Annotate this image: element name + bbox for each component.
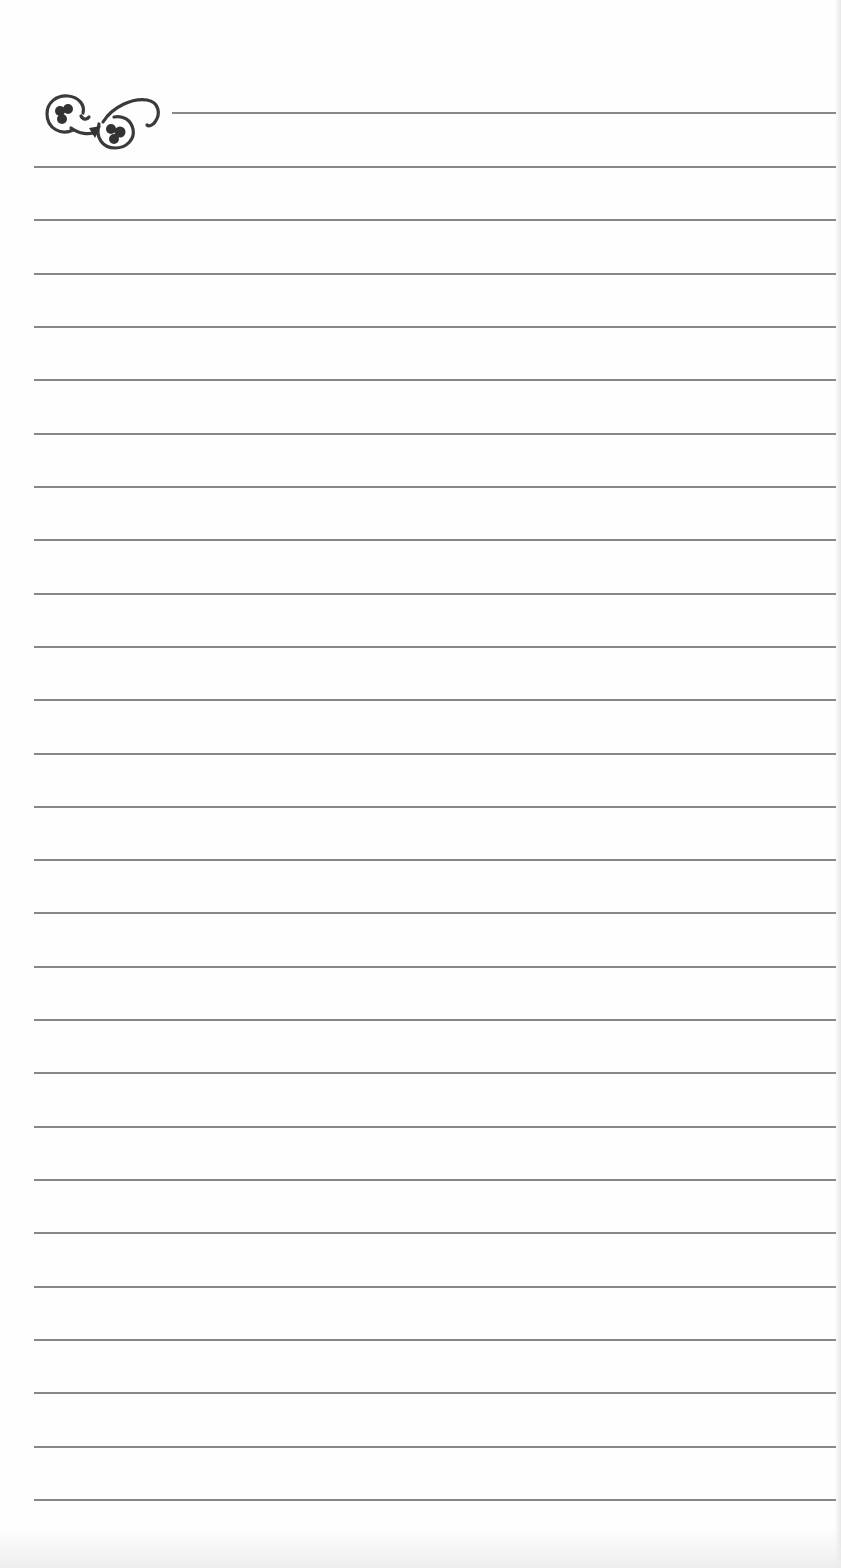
ruled-line bbox=[34, 273, 836, 275]
page-edge-shadow bbox=[835, 0, 841, 1568]
ruled-line bbox=[34, 859, 836, 861]
ruled-line bbox=[34, 699, 836, 701]
ruled-line bbox=[34, 1286, 836, 1288]
ruled-line bbox=[34, 1179, 836, 1181]
ruled-line bbox=[34, 593, 836, 595]
ruled-line bbox=[34, 1072, 836, 1074]
ruled-line bbox=[34, 753, 836, 755]
ruled-line bbox=[34, 806, 836, 808]
ruled-line bbox=[34, 486, 836, 488]
ruled-line bbox=[34, 1499, 836, 1501]
ruled-line bbox=[34, 1232, 836, 1234]
ruled-lines bbox=[0, 0, 841, 1568]
ruled-line bbox=[34, 433, 836, 435]
ruled-line bbox=[34, 1392, 836, 1394]
ruled-line bbox=[34, 1126, 836, 1128]
ruled-line bbox=[34, 379, 836, 381]
notepaper-page bbox=[0, 0, 841, 1568]
ruled-line bbox=[34, 166, 836, 168]
ruled-line bbox=[34, 646, 836, 648]
ruled-line bbox=[34, 1446, 836, 1448]
ruled-line bbox=[34, 1339, 836, 1341]
ruled-line bbox=[34, 219, 836, 221]
ruled-line bbox=[34, 912, 836, 914]
page-bottom-shadow bbox=[0, 1528, 841, 1568]
ruled-line bbox=[34, 326, 836, 328]
ruled-line bbox=[34, 966, 836, 968]
ruled-line bbox=[34, 1019, 836, 1021]
ruled-line bbox=[34, 539, 836, 541]
